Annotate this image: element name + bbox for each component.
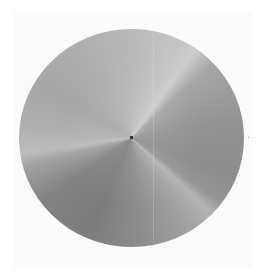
edge-speck (248, 137, 249, 138)
vertical-streak (153, 30, 154, 245)
center-dot (130, 136, 133, 139)
image-canvas: Grayscale disc with conic shading and th… (0, 0, 259, 280)
